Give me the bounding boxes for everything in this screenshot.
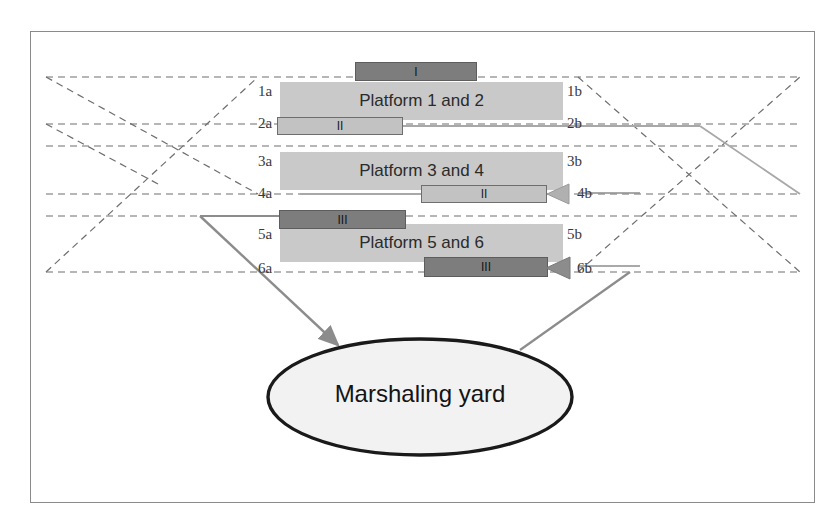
arrow-to-yard-right (520, 272, 630, 350)
track-label-1b: 1b (567, 84, 582, 99)
train-III-left: III (279, 210, 406, 229)
inbound-feeders (578, 193, 640, 266)
train-II-left-label: II (337, 119, 344, 133)
track-label-3b: 3b (567, 154, 582, 169)
track-label-3a: 3a (258, 154, 272, 169)
arrowhead-4b (545, 182, 581, 208)
track-label-5b: 5b (567, 227, 582, 242)
track-label-2a: 2a (258, 116, 272, 131)
platform-5-6-label: Platform 5 and 6 (359, 233, 484, 253)
train-I-top: I (355, 62, 477, 81)
track-label-1a: 1a (258, 84, 272, 99)
track-label-5a: 5a (258, 227, 272, 242)
track-label-6b: 6b (577, 261, 592, 276)
train-II-right: II (421, 185, 547, 203)
track-label-4b: 4b (577, 186, 592, 201)
diagram-canvas: Platform 1 and 2 Platform 3 and 4 Platfo… (0, 0, 840, 527)
platform-1-2-bar: Platform 1 and 2 (280, 82, 563, 120)
train-III-right: III (424, 257, 548, 277)
platform-1-2-label: Platform 1 and 2 (359, 91, 484, 111)
train-III-left-label: III (337, 213, 347, 227)
train-I-top-label: I (414, 65, 417, 79)
marshaling-yard-label: Marshaling yard (268, 380, 572, 408)
track-label-4a: 4a (258, 186, 272, 201)
train-III-right-label: III (481, 260, 491, 274)
platform-3-4-label: Platform 3 and 4 (359, 161, 484, 181)
train-II-right-label: II (481, 187, 488, 201)
train-II-left: II (277, 117, 403, 135)
dashed-crossovers-right (578, 77, 800, 272)
track-label-2b: 2b (567, 116, 582, 131)
dashed-crossovers-left (46, 77, 258, 272)
track-label-6a: 6a (258, 261, 272, 276)
